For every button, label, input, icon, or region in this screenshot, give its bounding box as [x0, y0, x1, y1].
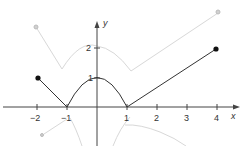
x-tick-label: 2	[154, 113, 159, 123]
x-axis	[3, 104, 236, 110]
y-axis	[94, 26, 100, 146]
ghost-graph-upper	[34, 10, 220, 71]
x-axis-arrow-icon	[233, 105, 240, 110]
y-axis-arrow-icon	[95, 21, 100, 28]
x-tick-label: −2	[30, 113, 40, 123]
y-tick-label: 2	[86, 43, 91, 53]
endpoint-right	[213, 46, 218, 51]
x-tick-label: −1	[61, 113, 71, 123]
y-axis-label: y	[102, 18, 108, 28]
x-axis-label: x	[230, 111, 236, 121]
function-curve	[38, 49, 216, 107]
x-tick-label: 3	[184, 113, 189, 123]
endpoint-left	[35, 75, 40, 80]
function-graph: −2 −1 1 2 3 4 2 1 x y	[0, 0, 242, 146]
x-tick-label: 1	[124, 113, 129, 123]
x-tick-label: 4	[214, 113, 219, 123]
